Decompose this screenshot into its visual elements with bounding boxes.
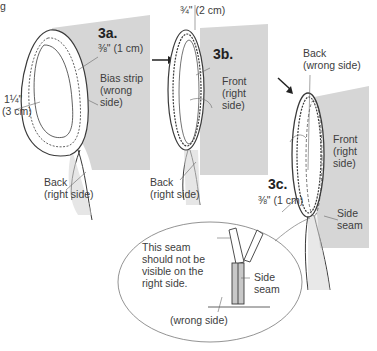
- bias-strip-label-3: side): [100, 96, 123, 108]
- strip-width-label: 1¼": [4, 93, 22, 105]
- callout-side-seam-label-2: seam: [254, 283, 280, 295]
- back-label-3c-2: (wrong side): [303, 59, 361, 71]
- panel-3b-garment: [168, 5, 268, 205]
- front-label-3c: Front: [333, 133, 358, 145]
- back-label-3c: Back: [303, 47, 326, 59]
- step-3c-label: 3c.: [268, 176, 287, 192]
- front-label-3c-2: (right: [333, 145, 357, 157]
- back-label-3b-2: (right side): [150, 188, 200, 200]
- callout-side-seam-label: Side: [254, 271, 275, 283]
- side-seam-label-3c-2: seam: [337, 219, 363, 231]
- back-label-3a: Back: [44, 176, 67, 188]
- side-seam-label-3c: Side: [337, 207, 358, 219]
- back-label-3b: Back: [150, 176, 173, 188]
- front-label-3b-3: side): [222, 99, 245, 111]
- panel-3c-garment: [282, 75, 369, 290]
- callout-note-2: should not be: [142, 253, 205, 265]
- callout-note-3: visible on the: [142, 265, 203, 277]
- front-label-3b-2: (right: [222, 87, 246, 99]
- arrow-down-right-icon: [278, 78, 293, 94]
- seam-allowance-label-3c: ⅜" (1 cm): [258, 194, 303, 206]
- measure-label-3b: ¾" (2 cm): [180, 4, 225, 16]
- cropped-heading-fragment: g: [0, 0, 6, 12]
- callout-note-4: right side.: [142, 277, 188, 289]
- callout-wrong-side-label: (wrong side): [170, 314, 228, 326]
- bias-strip-label: Bias strip: [100, 72, 143, 84]
- strip-width-metric-label: (3 cm): [2, 105, 32, 117]
- step-3a-label: 3a.: [98, 25, 117, 41]
- callout-note: This seam: [142, 241, 190, 253]
- step-3b-label: 3b.: [213, 46, 233, 62]
- front-label-3c-3: side): [333, 157, 356, 169]
- seam-allowance-label: ⅜" (1 cm): [98, 42, 143, 54]
- back-label-3a-2: (right side): [44, 188, 94, 200]
- bias-strip-label-2: (wrong: [100, 84, 132, 96]
- front-label-3b: Front: [222, 75, 247, 87]
